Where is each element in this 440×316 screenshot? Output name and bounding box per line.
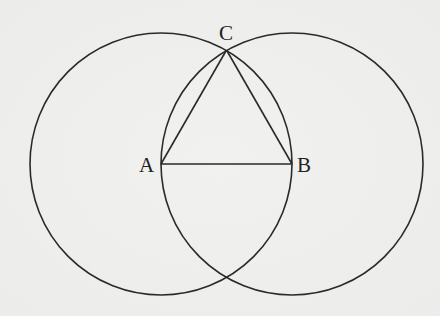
segment-BC [227,50,293,164]
label-point-C: C [219,21,233,45]
label-point-B: B [297,153,311,177]
label-point-A: A [139,153,155,177]
segment-AC [161,50,227,164]
diagram-canvas: A B C [0,0,440,316]
construction-svg: A B C [0,0,440,316]
